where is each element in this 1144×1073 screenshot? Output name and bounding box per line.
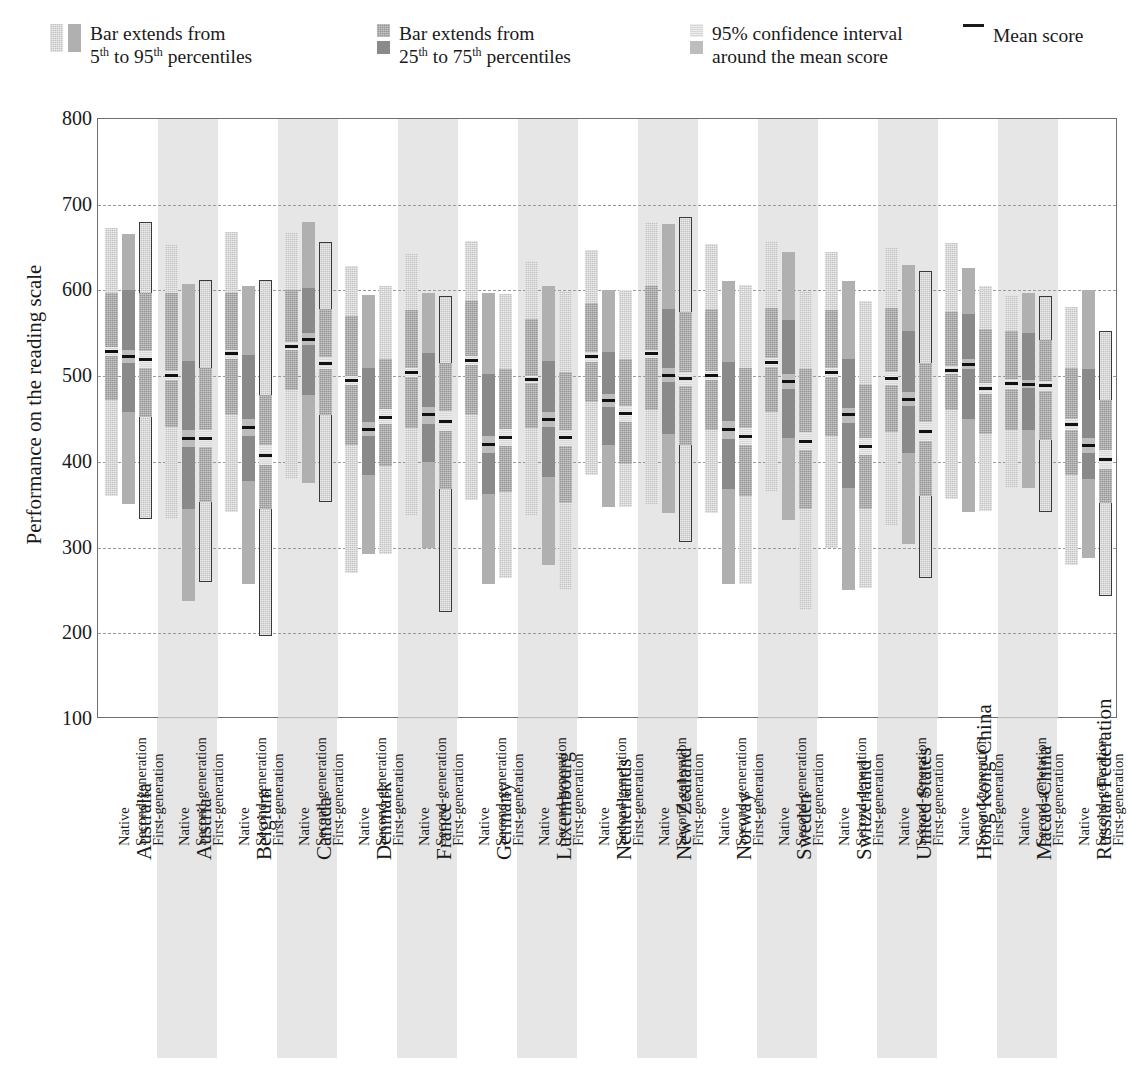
bar-austria-first-generation (199, 119, 212, 717)
bar-sweden-second-generation (782, 119, 795, 717)
percentile-25-75-range (525, 319, 538, 428)
x-label-generation: Native (536, 807, 553, 846)
x-label-generation: Native (596, 807, 613, 846)
x-label-country-germany: Germany (492, 782, 517, 860)
mean-score-marker (139, 358, 152, 361)
mean-score-marker (1039, 384, 1052, 387)
percentile-5-95-textured-swatch-icon (50, 24, 63, 52)
bar-belgium-native (225, 119, 238, 717)
percentile-25-75-range (482, 374, 495, 494)
x-label-country-norway: Norway (732, 792, 757, 860)
bar-new-zealand-second-generation (662, 119, 675, 717)
bar-france-native (405, 119, 418, 717)
percentile-25-75-range (842, 359, 855, 488)
bar-france-second-generation (422, 119, 435, 717)
mean-score-marker (379, 416, 392, 419)
x-label-country-russian-federation: Russian Federation (1092, 698, 1117, 860)
bar-united-states-second-generation (902, 119, 915, 717)
x-label-generation: Native (1076, 807, 1093, 846)
legend-line-1: Bar extends from (399, 23, 534, 44)
bar-australia-first-generation (139, 119, 152, 717)
mean-score-marker (559, 436, 572, 439)
chart-legend: Bar extends from 5th to 95th percentiles… (0, 22, 1144, 94)
x-label-country-france: France (432, 803, 457, 860)
mean-score-marker (782, 380, 795, 383)
mean-score-marker (1065, 423, 1078, 426)
bar-canada-first-generation (319, 119, 332, 717)
legend-line-1: 95% confidence interval (712, 23, 903, 44)
percentile-25-75-range (242, 355, 255, 481)
percentile-25-75-range (645, 286, 658, 410)
x-label-country-switzerland: Switzerland (852, 760, 877, 860)
bar-macao-china-native (1005, 119, 1018, 717)
x-label-generation: Native (776, 807, 793, 846)
mean-score-marker (902, 398, 915, 401)
mean-score-marker (842, 413, 855, 416)
x-label-country-hong-kong-china: Hong Kong-China (972, 704, 997, 860)
bar-australia-native (105, 119, 118, 717)
mean-score-marker (122, 355, 135, 358)
bar-united-states-native (885, 119, 898, 717)
bar-belgium-first-generation (259, 119, 272, 717)
bar-norway-second-generation (722, 119, 735, 717)
percentile-25-75-textured-swatch-icon (377, 24, 390, 37)
percentile-25-75-range (1082, 369, 1095, 479)
mean-score-marker (765, 361, 778, 364)
mean-score-marker (542, 418, 555, 421)
percentile-25-75-range (945, 312, 958, 411)
mean-score-marker (679, 377, 692, 380)
mean-score-line-icon (963, 24, 984, 27)
mean-score-marker (345, 379, 358, 382)
mean-score-marker (962, 363, 975, 366)
x-label-generation: Native (956, 807, 973, 846)
mean-score-marker (1082, 444, 1095, 447)
x-label-generation: Native (656, 807, 673, 846)
bar-norway-first-generation (739, 119, 752, 717)
bar-russian-federation-first-generation (1099, 119, 1112, 717)
mean-score-marker (225, 352, 238, 355)
y-axis-tick-labels: 800700600500400300200100 (42, 100, 92, 740)
mean-score-marker (945, 369, 958, 372)
bar-france-first-generation (439, 119, 452, 717)
bar-netherlands-second-generation (602, 119, 615, 717)
legend-swatch-group-25-75 (377, 22, 390, 54)
x-label-generation: Native (116, 807, 133, 846)
legend-line-2-post: percentiles (482, 46, 571, 67)
mean-score-marker (242, 426, 255, 429)
bar-hong-kong-china-native (945, 119, 958, 717)
bar-netherlands-native (585, 119, 598, 717)
bar-hong-kong-china-first-generation (979, 119, 992, 717)
bar-austria-second-generation (182, 119, 195, 717)
percentile-25-75-range (165, 293, 178, 427)
percentile-25-75-range (285, 290, 298, 389)
bar-netherlands-first-generation (619, 119, 632, 717)
mean-score-marker (1022, 383, 1035, 386)
legend-label-25-75: Bar extends from 25th to 75th percentile… (399, 22, 571, 68)
legend-label-5-95: Bar extends from 5th to 95th percentiles (90, 22, 252, 68)
mean-score-marker (859, 445, 872, 448)
chart-plot-wrapper: Performance on the reading scale 8007006… (0, 100, 1144, 740)
bar-new-zealand-first-generation (679, 119, 692, 717)
bar-sweden-native (765, 119, 778, 717)
x-label-country-netherlands: Netherlands (612, 759, 637, 860)
x-axis-labels: NativeSecond-generationFirst-generationA… (97, 718, 1117, 1073)
bar-sweden-first-generation (799, 119, 812, 717)
legend-swatch-group-5-95 (50, 22, 81, 52)
bar-germany-second-generation (482, 119, 495, 717)
x-label-generation: Native (716, 807, 733, 846)
x-label-generation: Native (416, 807, 433, 846)
mean-score-marker (182, 437, 195, 440)
bar-canada-second-generation (302, 119, 315, 717)
legend-label-ci: 95% confidence interval around the mean … (712, 22, 903, 68)
x-label-generation: Native (476, 807, 493, 846)
legend-label-mean: Mean score (993, 24, 1083, 47)
legend-line-2-post: percentiles (163, 46, 252, 67)
mean-score-marker (482, 443, 495, 446)
bar-macao-china-second-generation (1022, 119, 1035, 717)
mean-score-marker (1099, 458, 1112, 461)
mean-score-marker (422, 413, 435, 416)
legend-sup-th-1: th (100, 45, 109, 59)
percentile-25-75-solid-swatch-icon (377, 41, 390, 54)
bar-switzerland-second-generation (842, 119, 855, 717)
y-axis-tick-700: 700 (42, 194, 92, 214)
